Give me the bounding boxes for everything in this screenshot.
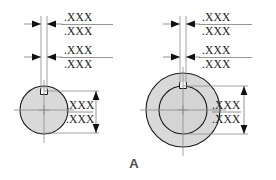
left-lower-dim-lower-value: .XXX bbox=[64, 58, 93, 70]
right-top-dim-lower-value: .XXX bbox=[202, 25, 231, 37]
left-vertical-dim-upper-value: .XXX bbox=[66, 99, 95, 111]
figure-caption: A bbox=[129, 156, 139, 171]
left-top-dim-lower-value: .XXX bbox=[64, 25, 93, 37]
right-lower-dim-upper-value: .XXX bbox=[202, 44, 231, 56]
right-vertical-dim-lower-value: .XXX bbox=[212, 113, 241, 125]
left-lower-dim-upper-value: .XXX bbox=[64, 44, 93, 56]
left-top-dim-upper-value: .XXX bbox=[64, 11, 93, 23]
right-top-dim-upper-value: .XXX bbox=[202, 11, 231, 23]
right-vertical-dim-upper-value: .XXX bbox=[212, 99, 241, 111]
drawing-canvas: .XXX .XXX .XXX .XXX .XXX bbox=[0, 0, 276, 180]
right-lower-dim-lower-value: .XXX bbox=[202, 58, 231, 70]
left-vertical-dim-lower-value: .XXX bbox=[66, 113, 95, 125]
engineering-drawing-figure: .XXX .XXX .XXX .XXX .XXX bbox=[0, 0, 276, 180]
